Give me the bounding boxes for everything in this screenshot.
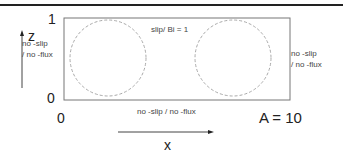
left-boundary-line2: / no -flux [22, 49, 53, 60]
right-boundary-label: no -slip / no -flux [291, 48, 322, 70]
right-boundary-line2: / no -flux [291, 59, 322, 70]
left-boundary-label: no -slip / no -flux [22, 38, 53, 60]
right-boundary-line1: no -slip [291, 48, 322, 59]
z-arrowhead-icon [20, 30, 24, 36]
top-boundary-label: slip/ Bi = 1 [151, 24, 188, 35]
left-convection-cell [70, 20, 146, 96]
bottom-boundary-label: no -slip / no -flux [137, 106, 196, 117]
right-convection-cell [195, 20, 271, 96]
z-tick-top: 1 [48, 11, 56, 27]
aspect-ratio-label: A = 10 [259, 109, 302, 126]
x-axis-label: x [164, 137, 171, 153]
left-boundary-line1: no -slip [22, 38, 53, 49]
x-arrowhead-icon [208, 130, 214, 134]
z-tick-bottom: 0 [47, 90, 55, 106]
x-tick-left: 0 [57, 110, 65, 126]
